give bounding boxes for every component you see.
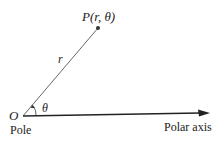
angle-label: θ <box>42 101 48 116</box>
polar-axis-label: Polar axis <box>164 120 212 135</box>
radius-label: r <box>58 52 63 67</box>
pole-label: Pole <box>10 123 31 138</box>
polar-axis-line <box>23 113 200 116</box>
angle-arc-arrowhead <box>31 105 35 109</box>
point-p-dot <box>96 26 100 30</box>
point-p-label: P(r, θ) <box>82 9 115 25</box>
polar-axis-arrowhead <box>198 110 210 117</box>
origin-label: O <box>9 108 18 124</box>
radius-line <box>23 28 98 116</box>
